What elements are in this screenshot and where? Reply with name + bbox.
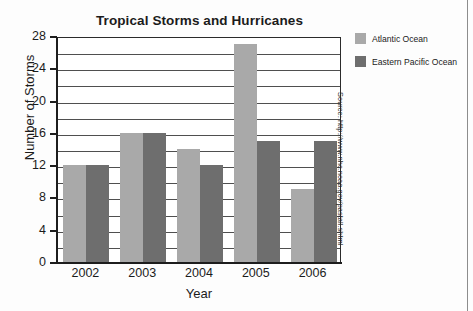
legend-swatch-icon: [355, 33, 366, 44]
y-axis-title: Number of Storms: [22, 33, 37, 183]
bar: [234, 44, 257, 262]
legend-item: Eastern Pacific Ocean: [355, 56, 457, 67]
x-axis-line: [56, 262, 342, 264]
chart-legend: Atlantic OceanEastern Pacific Ocean: [355, 33, 457, 79]
bar-group: [291, 38, 337, 262]
bar-group: [120, 38, 166, 262]
x-axis-title: Year: [57, 286, 341, 301]
bar-group: [177, 38, 223, 262]
bar: [177, 149, 200, 262]
legend-label: Atlantic Ocean: [372, 34, 428, 44]
y-axis-tick: [50, 197, 57, 199]
x-axis-tick-label: 2002: [57, 266, 114, 280]
page-border-line: [467, 0, 468, 311]
y-axis-tick: [50, 165, 57, 167]
bar: [291, 189, 314, 262]
y-axis-tick-label: 4: [6, 224, 46, 237]
legend-swatch-icon: [355, 56, 366, 67]
bar: [143, 133, 166, 262]
y-axis-tick: [50, 36, 57, 38]
bar: [120, 133, 143, 262]
y-axis-tick: [50, 230, 57, 232]
bar: [86, 165, 109, 262]
y-axis-tick-label: 0: [6, 256, 46, 269]
chart-page: Tropical Storms and Hurricanes 048121620…: [0, 0, 473, 311]
bar: [314, 141, 337, 262]
bar: [200, 165, 223, 262]
bar-group: [63, 38, 109, 262]
y-axis-tick-label: 8: [6, 191, 46, 204]
legend-label: Eastern Pacific Ocean: [372, 57, 457, 67]
bar-group: [234, 38, 280, 262]
y-axis-tick: [50, 133, 57, 135]
y-axis-tick: [50, 68, 57, 70]
bars-layer: [58, 38, 340, 262]
chart-title: Tropical Storms and Hurricanes: [57, 13, 342, 28]
plot-area: [57, 37, 341, 263]
x-axis-tick-label: 2004: [171, 266, 228, 280]
bar: [63, 165, 86, 262]
bar: [257, 141, 280, 262]
legend-item: Atlantic Ocean: [355, 33, 457, 44]
source-note: Source: http://www.nhc.noaa.gov/pastall.…: [336, 92, 345, 245]
x-axis-tick-label: 2005: [227, 266, 284, 280]
x-axis-tick-label: 2006: [284, 266, 341, 280]
x-axis-tick-label: 2003: [114, 266, 171, 280]
y-axis-tick: [50, 101, 57, 103]
